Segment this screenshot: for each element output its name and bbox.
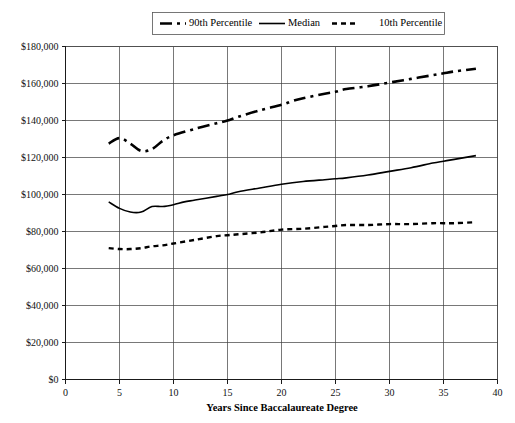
x-axis-tick-label: 40 bbox=[493, 387, 503, 398]
x-axis-tick-label: 15 bbox=[223, 387, 233, 398]
series-line-2 bbox=[109, 222, 476, 249]
x-axis-tick-label: 35 bbox=[439, 387, 449, 398]
x-axis-tick-label: 30 bbox=[385, 387, 395, 398]
legend-label-0: 90th Percentile bbox=[189, 17, 253, 28]
legend-label-1: Median bbox=[288, 17, 321, 28]
y-axis-tick-labels: $0$20,000$40,000$60,000$80,000$100,000$1… bbox=[21, 41, 59, 385]
x-axis-title: Years Since Baccalaureate Degree bbox=[206, 402, 358, 413]
y-axis-tick-label: $120,000 bbox=[21, 152, 59, 163]
y-axis-tick-label: $180,000 bbox=[21, 41, 59, 52]
y-axis-tick-label: $80,000 bbox=[26, 226, 59, 237]
y-axis-tick-label: $40,000 bbox=[26, 300, 59, 311]
y-axis-tick-label: $140,000 bbox=[21, 115, 59, 126]
y-axis-tick-label: $60,000 bbox=[26, 263, 59, 274]
chart-container: $0$20,000$40,000$60,000$80,000$100,000$1… bbox=[0, 0, 515, 423]
data-series bbox=[109, 69, 476, 249]
x-axis-tick-labels: 0510152025303540 bbox=[63, 387, 503, 398]
x-axis-tick-label: 25 bbox=[331, 387, 341, 398]
y-axis-tick-label: $20,000 bbox=[26, 337, 59, 348]
series-line-0 bbox=[109, 69, 476, 152]
x-axis-tick-label: 10 bbox=[169, 387, 179, 398]
chart-legend: 90th PercentileMedian10th Percentile bbox=[153, 13, 445, 35]
legend-label-2: 10th Percentile bbox=[379, 17, 443, 28]
series-line-1 bbox=[109, 156, 476, 213]
y-axis-tick-label: $100,000 bbox=[21, 189, 59, 200]
x-axis-tick-label: 5 bbox=[117, 387, 122, 398]
axes bbox=[62, 47, 498, 384]
y-axis-tick-label: $0 bbox=[49, 374, 59, 385]
y-axis-tick-label: $160,000 bbox=[21, 78, 59, 89]
x-axis-tick-label: 20 bbox=[277, 387, 287, 398]
line-chart: $0$20,000$40,000$60,000$80,000$100,000$1… bbox=[0, 0, 515, 423]
grid-lines bbox=[66, 47, 498, 380]
x-axis-tick-label: 0 bbox=[63, 387, 68, 398]
